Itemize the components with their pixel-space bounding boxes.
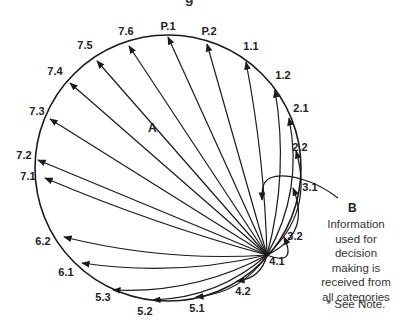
node-label: 3.1 bbox=[302, 181, 317, 193]
footnote: * See Note. bbox=[316, 297, 396, 312]
node-label: 1.2 bbox=[275, 69, 290, 81]
flow-arrow bbox=[246, 62, 267, 255]
node-label: 7.5 bbox=[77, 39, 92, 51]
node-label: 7.1 bbox=[20, 170, 35, 182]
flow-arrow bbox=[82, 255, 267, 268]
callout-line: decision bbox=[306, 246, 404, 261]
node-label: 5.3 bbox=[95, 291, 110, 303]
node-label: 7.6 bbox=[118, 25, 133, 37]
callout-line: Information bbox=[306, 217, 404, 232]
callout-letter-b: B bbox=[348, 201, 357, 215]
flow-arrow bbox=[70, 83, 267, 255]
callout-line: used for bbox=[306, 232, 404, 247]
node-label: 2.2 bbox=[292, 141, 307, 153]
flow-arrow bbox=[267, 90, 280, 255]
node-label: 3.2 bbox=[287, 230, 302, 242]
node-label: 5.2 bbox=[137, 305, 152, 317]
node-label: P.2 bbox=[201, 25, 216, 37]
label-group: P.1P.21.11.22.12.23.13.24.25.15.25.36.16… bbox=[16, 20, 317, 317]
node-label: 4.2 bbox=[235, 285, 250, 297]
node-label: 2.1 bbox=[293, 102, 308, 114]
node-label: 7.4 bbox=[47, 65, 63, 77]
flow-arrow bbox=[38, 160, 267, 255]
hub-label: 4.1 bbox=[269, 255, 284, 267]
node-label: 7.2 bbox=[16, 149, 31, 161]
flow-arrow bbox=[129, 46, 267, 255]
node-label: 6.1 bbox=[58, 266, 73, 278]
callout-text: Information used for decision making is … bbox=[306, 217, 404, 304]
node-label: 1.1 bbox=[243, 40, 258, 52]
arrow-group bbox=[38, 37, 301, 300]
callout-line: making is bbox=[306, 261, 404, 276]
node-label: 5.1 bbox=[189, 302, 204, 314]
flow-arrow bbox=[97, 61, 267, 255]
node-label: 6.2 bbox=[35, 235, 50, 247]
center-label-a: A bbox=[148, 121, 157, 135]
callout-line: received from bbox=[306, 275, 404, 290]
node-label: 7.3 bbox=[29, 105, 44, 117]
node-label: P.1 bbox=[160, 20, 175, 32]
flow-arrow bbox=[168, 37, 267, 255]
